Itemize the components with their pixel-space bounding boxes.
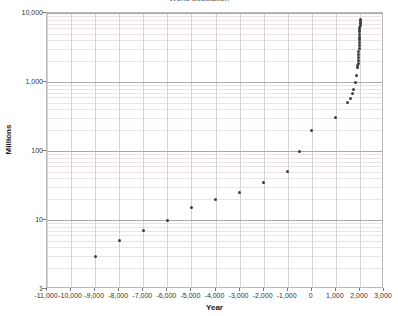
x-tick-mark [359,288,360,291]
data-point [349,97,352,100]
gridline-horizontal-minor [47,162,382,163]
x-axis-tick-labels: -11,000-10,000-9,000-8,000-7,000-6,000-5… [46,292,383,302]
plot-area [46,12,383,288]
gridline-vertical [288,13,289,287]
gridline-horizontal-major [47,82,382,83]
x-tick-mark [70,288,71,291]
data-point [359,18,362,21]
x-tick-mark [118,288,119,291]
gridline-horizontal-minor [47,158,382,159]
y-tick-label: 10,000 [1,9,43,16]
x-tick-mark [46,288,47,291]
gridline-horizontal-minor [47,231,382,232]
gridline-horizontal-minor [47,93,382,94]
data-point [298,150,301,153]
gridline-horizontal-minor [47,89,382,90]
data-point [358,47,361,50]
y-tick-label: 10 [1,216,43,223]
gridline-vertical [312,13,313,287]
x-tick-mark [142,288,143,291]
x-tick-mark [335,288,336,291]
population-scatter-chart: World population Millions 1101001,00010,… [0,0,398,316]
gridline-horizontal-minor [47,28,382,29]
data-point [190,206,193,209]
x-tick-mark [215,288,216,291]
gridline-horizontal-minor [47,20,382,21]
gridline-vertical [167,13,168,287]
gridline-horizontal-minor [47,154,382,155]
gridline-horizontal-minor [47,109,382,110]
gridline-horizontal-minor [47,49,382,50]
gridline-horizontal-minor [47,118,382,119]
gridline-horizontal-minor [47,61,382,62]
gridline-vertical [95,13,96,287]
gridline-vertical [47,13,48,287]
gridline-horizontal-minor [47,178,382,179]
y-tick-label: 100 [1,147,43,154]
chart-title: World population [0,0,398,1]
gridline-vertical [191,13,192,287]
data-point [358,36,361,39]
data-point [142,229,145,232]
gridline-horizontal-minor [47,85,382,86]
gridline-horizontal-minor [47,172,382,173]
gridline-horizontal-major [47,220,382,221]
x-tick-mark [166,288,167,291]
data-point [214,198,217,201]
gridline-horizontal-minor [47,130,382,131]
gridline-horizontal-minor [47,40,382,41]
data-point [94,255,97,258]
gridline-horizontal-minor [47,34,382,35]
data-point [357,56,360,59]
gridline-vertical [240,13,241,287]
gridline-horizontal-minor [47,16,382,17]
gridline-horizontal-minor [47,227,382,228]
x-tick-mark [311,288,312,291]
gridline-horizontal-minor [47,187,382,188]
data-point [354,81,357,84]
gridline-vertical [360,13,361,287]
data-point [357,62,360,65]
gridline-horizontal-minor [47,247,382,248]
gridline-vertical [336,13,337,287]
x-tick-mark [239,288,240,291]
x-axis-title: Year [46,303,383,312]
gridline-horizontal-major [47,13,382,14]
gridline-vertical [216,13,217,287]
gridline-vertical [71,13,72,287]
data-point [355,74,358,77]
x-tick-label: 3,000 [363,292,398,299]
gridline-horizontal-minor [47,268,382,269]
gridline-horizontal-minor [47,97,382,98]
gridline-vertical [264,13,265,287]
data-point [357,53,360,56]
y-axis-tick-labels: 1101001,00010,000 [0,12,43,288]
gridline-vertical [119,13,120,287]
data-point [166,219,169,222]
gridline-horizontal-minor [47,103,382,104]
x-tick-mark [190,288,191,291]
y-tick-label: 1,000 [1,78,43,85]
gridline-vertical [143,13,144,287]
gridline-horizontal-minor [47,241,382,242]
gridline-horizontal-minor [47,223,382,224]
x-tick-mark [263,288,264,291]
y-tick-label: 1 [1,285,43,292]
x-tick-mark [94,288,95,291]
gridline-horizontal-minor [47,166,382,167]
gridline-horizontal-minor [47,256,382,257]
data-point [351,92,354,95]
data-point [357,59,360,62]
gridline-horizontal-minor [47,24,382,25]
gridline-horizontal-minor [47,235,382,236]
gridline-horizontal-major [47,151,382,152]
x-tick-mark [383,288,384,291]
x-tick-mark [287,288,288,291]
